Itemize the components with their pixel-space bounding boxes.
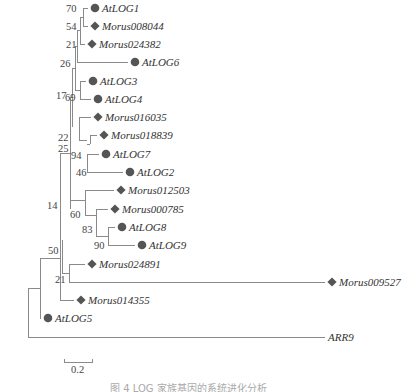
bootstrap-value: 14	[47, 200, 58, 211]
diamond-marker-icon	[93, 112, 102, 121]
leaf-label: ARR9	[327, 331, 354, 343]
leaf-morus012503: Morus012503	[116, 184, 190, 196]
leaf-atlog5: AtLOG5	[44, 312, 93, 324]
bootstrap-value: 69	[65, 92, 76, 103]
leaf-label: AtLOG4	[104, 93, 143, 105]
diamond-marker-icon	[76, 295, 85, 304]
diamond-marker-icon	[99, 130, 108, 139]
circle-marker-icon	[118, 223, 127, 232]
leaf-label: Morus024382	[98, 38, 161, 50]
bootstrap-value: 21	[66, 39, 77, 50]
leaf-label: Morus014355	[87, 294, 150, 306]
leaf-label: AtLOG8	[128, 221, 167, 233]
leaf-atlog2: AtLOG2	[126, 166, 175, 178]
circle-marker-icon	[126, 168, 135, 177]
leaf-label: Morus000785	[121, 203, 184, 215]
leaf-atlog7: AtLOG7	[102, 148, 151, 160]
circle-marker-icon	[131, 58, 140, 67]
leaf-atlog3: AtLOG3	[89, 75, 138, 87]
circle-marker-icon	[91, 4, 100, 13]
bootstrap-value: 70	[66, 3, 77, 14]
circle-marker-icon	[138, 241, 147, 250]
leaf-atlog9: AtLOG9	[138, 239, 187, 251]
leaf-atlog8: AtLOG8	[118, 221, 167, 233]
bootstrap-value: 94	[71, 150, 82, 161]
leaf-label: AtLOG5	[54, 312, 93, 324]
leaf-label: AtLOG3	[99, 75, 138, 87]
leaf-morus024382: Morus024382	[87, 38, 161, 50]
leaf-label: AtLOG7	[112, 148, 151, 160]
diamond-marker-icon	[110, 204, 119, 213]
bootstrap-value: 60	[70, 209, 81, 220]
leaf-morus018839: Morus018839	[99, 129, 173, 141]
bootstrap-value: 26	[60, 58, 71, 69]
diamond-marker-icon	[116, 185, 125, 194]
leaf-label: Morus018839	[110, 129, 173, 141]
leaf-morus016035: Morus016035	[93, 111, 167, 123]
figure-caption: 图 4 LOG 家族基因的系统进化分析	[110, 380, 300, 392]
leaf-label: AtLOG9	[148, 239, 187, 251]
leaf-label: Morus012503	[127, 184, 190, 196]
bootstrap-value: 83	[82, 224, 93, 235]
diamond-marker-icon	[87, 259, 96, 268]
leaf-morus000785: Morus000785	[110, 203, 184, 215]
bootstrap-value: 50	[48, 245, 59, 256]
bootstrap-value: 90	[94, 240, 105, 251]
circle-marker-icon	[94, 95, 103, 104]
diamond-marker-icon	[87, 39, 96, 48]
bootstrap-value: 25	[58, 143, 69, 154]
leaf-morus024891: Morus024891	[87, 258, 160, 270]
bootstrap-value: 54	[66, 21, 77, 32]
bootstrap-value: 46	[76, 167, 87, 178]
circle-marker-icon	[89, 77, 98, 86]
leaf-atlog4: AtLOG4	[94, 93, 143, 105]
leaf-label: Morus009527	[338, 276, 401, 288]
leaf-morus009527: Morus009527	[327, 276, 401, 288]
leaf-label: AtLOG6	[141, 56, 180, 68]
leaf-atlog1: AtLOG1	[91, 2, 140, 14]
leaf-label: Morus016035	[104, 111, 167, 123]
scale-bar: 0.2	[64, 359, 92, 375]
leaf-label: AtLOG1	[101, 2, 139, 14]
diamond-marker-icon	[327, 277, 336, 286]
leaf-label: AtLOG2	[136, 166, 175, 178]
scale-bar-label: 0.2	[71, 364, 84, 375]
leaf-atlog6: AtLOG6	[131, 56, 180, 68]
leaf-arr9: ARR9	[327, 331, 354, 343]
leaf-morus014355: Morus014355	[76, 294, 150, 306]
bootstrap-values: 70542126176922259446146083905021	[47, 3, 105, 285]
leaf-label: Morus024891	[98, 258, 161, 270]
leaf-morus008044: Morus008044	[90, 20, 164, 32]
bootstrap-value: 21	[55, 274, 66, 285]
circle-marker-icon	[102, 150, 111, 159]
leaf-label: Morus008044	[101, 20, 164, 32]
diamond-marker-icon	[90, 21, 99, 30]
bootstrap-value: 22	[58, 132, 69, 143]
circle-marker-icon	[44, 314, 53, 323]
